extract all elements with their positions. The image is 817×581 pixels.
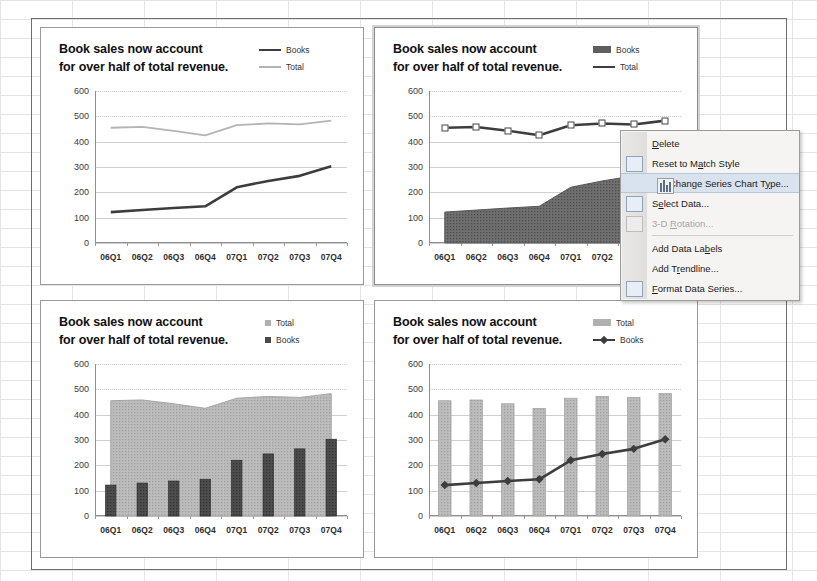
chart-series-canvas (95, 364, 347, 516)
x-axis-category-label: 07Q3 (289, 252, 310, 262)
x-axis-category-label: 06Q4 (195, 525, 216, 535)
x-axis-tick-mark (284, 243, 285, 246)
context-menu-item-add-trendline[interactable]: Add Trendline... (621, 258, 799, 278)
chart-title-line-1: Book sales now account (59, 40, 269, 58)
context-menu-item-add-data-labels[interactable]: Add Data Labels (621, 238, 799, 258)
chart-bar[interactable] (627, 397, 640, 516)
y-axis-tick-label: 100 (74, 213, 89, 223)
legend-entry[interactable]: Books (593, 41, 687, 58)
legend-square-swatch-icon (265, 320, 271, 326)
context-menu-item-reset-to-match-style[interactable]: Reset to Match Style (621, 153, 799, 173)
y-axis-tick-label: 300 (74, 162, 89, 172)
chart-bar[interactable] (106, 485, 116, 516)
chart-line-series[interactable] (111, 166, 332, 212)
legend-label: Total (616, 318, 634, 328)
x-axis-category-label: 07Q2 (258, 252, 279, 262)
y-axis-tick-label: 600 (408, 359, 423, 369)
chart-panel-area-column[interactable]: Book sales now accountfor over half of t… (40, 300, 364, 558)
x-axis-category-label: 06Q3 (497, 252, 518, 262)
x-axis-category-label: 06Q3 (163, 525, 184, 535)
y-axis-tick-label: 200 (408, 460, 423, 470)
chart-panel-column-line[interactable]: Book sales now accountfor over half of t… (374, 300, 698, 558)
series-selection-handle[interactable] (536, 132, 543, 139)
context-menu-item-format-data-series[interactable]: Format Data Series... (621, 278, 799, 298)
chart-bar[interactable] (169, 481, 179, 516)
y-axis-tick-label: 100 (408, 213, 423, 223)
chart-bar[interactable] (232, 460, 242, 516)
chart-series-canvas (429, 364, 681, 516)
chart-bar[interactable] (137, 483, 147, 516)
context-menu-item-select-data[interactable]: Select Data... (621, 193, 799, 213)
legend-line-swatch-icon (259, 49, 281, 51)
legend-box-swatch-icon (593, 319, 611, 326)
x-axis-tick-mark (429, 516, 430, 519)
y-axis-tick-label: 500 (408, 384, 423, 394)
chart-legend[interactable]: TotalBooks (259, 314, 353, 348)
x-axis-tick-mark (347, 516, 348, 519)
legend-entry[interactable]: Books (259, 41, 353, 58)
chart-title-line-2: for over half of total revenue. (59, 58, 269, 76)
legend-entry[interactable]: Books (259, 331, 353, 348)
chart-legend[interactable]: BooksTotal (259, 41, 353, 75)
chart-plot-area[interactable]: 0100200300400500600 (95, 91, 347, 243)
legend-entry[interactable]: Total (593, 58, 687, 75)
x-axis-tick-mark (316, 243, 317, 246)
context-menu-item-label: Reset to Match Style (652, 158, 740, 169)
x-axis-tick-mark (681, 516, 682, 519)
legend-entry[interactable]: Total (259, 58, 353, 75)
y-axis-tick-label: 500 (408, 111, 423, 121)
chart-bar[interactable] (326, 439, 336, 516)
chart-title: Book sales now accountfor over half of t… (59, 40, 269, 76)
x-axis-category-label: 06Q4 (529, 525, 550, 535)
x-axis-category-label: 07Q1 (226, 252, 247, 262)
chart-bar[interactable] (200, 479, 210, 516)
chart-bar[interactable] (438, 401, 451, 516)
series-context-menu[interactable]: DeleteReset to Match StyleChange Series … (620, 130, 800, 301)
series-selection-handle[interactable] (567, 122, 574, 129)
y-axis-tick-label: 600 (74, 86, 89, 96)
legend-entry[interactable]: Total (259, 314, 353, 331)
chart-series-canvas (95, 91, 347, 243)
series-selection-handle[interactable] (473, 123, 480, 130)
legend-entry[interactable]: Total (593, 314, 687, 331)
chart-bar[interactable] (470, 400, 483, 516)
x-axis-tick-mark (650, 516, 651, 519)
series-selection-handle[interactable] (662, 117, 669, 124)
chart-title-line-1: Book sales now account (393, 313, 603, 331)
series-selection-handle[interactable] (599, 120, 606, 127)
y-axis-tick-label: 0 (84, 238, 89, 248)
y-axis-tick-label: 0 (84, 511, 89, 521)
chart-bar[interactable] (501, 404, 514, 516)
y-axis-tick-label: 500 (74, 111, 89, 121)
y-axis-tick-label: 200 (74, 187, 89, 197)
legend-label: Total (286, 62, 304, 72)
y-axis-tick-label: 100 (74, 486, 89, 496)
chart-legend[interactable]: TotalBooks (593, 314, 687, 348)
x-axis-tick-mark (587, 516, 588, 519)
context-menu-item-delete[interactable]: Delete (621, 133, 799, 153)
x-axis-category-label: 06Q2 (132, 252, 153, 262)
context-menu-item-change-series-chart-type[interactable]: Change Series Chart Type... (621, 173, 799, 193)
chart-bar[interactable] (263, 454, 273, 516)
reset-style-icon (626, 156, 643, 172)
x-axis-category-label: 07Q1 (560, 252, 581, 262)
legend-line-swatch-icon (593, 66, 615, 68)
chart-bar[interactable] (659, 394, 672, 516)
series-selection-handle[interactable] (441, 124, 448, 131)
chart-legend[interactable]: BooksTotal (593, 41, 687, 75)
legend-label: Books (276, 335, 300, 345)
x-axis-category-label: 07Q3 (289, 525, 310, 535)
series-selection-handle[interactable] (630, 121, 637, 128)
x-axis-category-label: 06Q2 (466, 525, 487, 535)
chart-line-series[interactable] (111, 121, 332, 136)
chart-panel-line-line[interactable]: Book sales now accountfor over half of t… (40, 27, 364, 285)
chart-bar[interactable] (533, 408, 546, 516)
chart-bar[interactable] (295, 449, 305, 516)
legend-entry[interactable]: Books (593, 331, 687, 348)
chart-title-line-2: for over half of total revenue. (393, 58, 603, 76)
x-axis-category-label: 06Q4 (195, 252, 216, 262)
series-selection-handle[interactable] (504, 127, 511, 134)
chart-plot-area[interactable]: 0100200300400500600 (95, 364, 347, 516)
x-axis-category-label: 06Q3 (163, 252, 184, 262)
chart-plot-area[interactable]: 0100200300400500600 (429, 364, 681, 516)
